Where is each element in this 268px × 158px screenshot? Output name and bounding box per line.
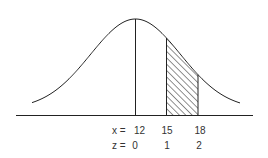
x-row-prefix: x =: [112, 125, 126, 136]
shaded-area-15-to-18: [167, 38, 199, 115]
x-label-18: 18: [194, 125, 206, 136]
z-label-0: 0: [132, 140, 138, 151]
normal-curve-diagram: x = 12 15 18 z = 0 1 2: [0, 0, 268, 158]
z-row-prefix: z =: [112, 140, 126, 151]
x-label-15: 15: [161, 125, 173, 136]
z-label-2: 2: [196, 140, 202, 151]
x-label-12: 12: [134, 125, 146, 136]
z-label-1: 1: [164, 140, 170, 151]
